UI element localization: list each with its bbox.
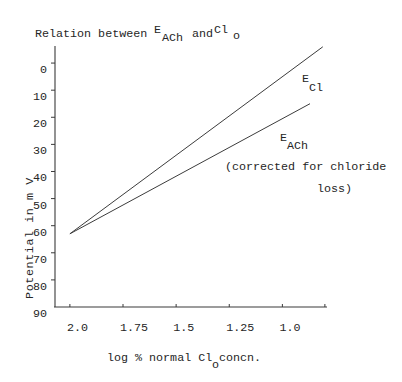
x-tick-label: 2.0 bbox=[67, 321, 88, 335]
y-tick-label: 10 bbox=[33, 90, 47, 104]
x-axis-label-text-a: log % normal Cl bbox=[107, 351, 212, 365]
y-tick-label: 30 bbox=[33, 144, 47, 158]
each-note-line-2: loss) bbox=[317, 182, 352, 196]
each-label-main: E bbox=[280, 131, 287, 145]
ecl-label-main: E bbox=[302, 72, 309, 86]
title-sub-o: o bbox=[233, 29, 240, 43]
x-tick-label: 1.0 bbox=[279, 321, 300, 335]
y-tick-label: 20 bbox=[33, 117, 47, 131]
x-tick-label: 1.25 bbox=[226, 321, 254, 335]
y-tick-label: 90 bbox=[33, 307, 47, 321]
y-tick-label: 0 bbox=[40, 63, 47, 77]
each-note-line-1: (corrected for chloride bbox=[225, 160, 386, 174]
ecl-label-sub: Cl bbox=[309, 81, 323, 95]
y-axis-label: Potential in m V bbox=[23, 177, 37, 299]
title-sub-ach: ACh bbox=[162, 31, 183, 45]
x-tick-label: 1.5 bbox=[173, 321, 194, 335]
title-e: E bbox=[154, 23, 161, 37]
chart: Relation between E ACh and Cl o 01020304… bbox=[0, 0, 402, 382]
each-label-sub: ACh bbox=[287, 139, 308, 153]
x-axis-label-sub: o bbox=[212, 358, 219, 372]
x-tick-label: 1.75 bbox=[120, 321, 148, 335]
title-text-a: Relation between bbox=[35, 27, 154, 41]
title-cl: Cl bbox=[214, 23, 228, 37]
chart-container: Relation between E ACh and Cl o 01020304… bbox=[0, 0, 402, 382]
x-axis-label-text-b: concn. bbox=[219, 351, 261, 365]
